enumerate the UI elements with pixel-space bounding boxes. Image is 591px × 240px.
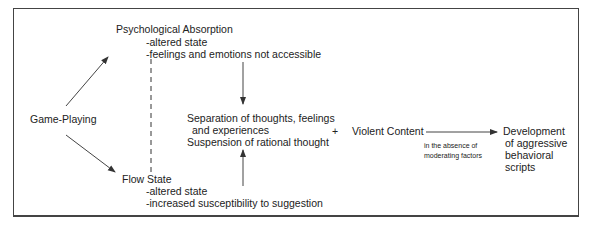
arrow-game-to-absorption <box>66 57 108 106</box>
plus-sign: + <box>332 125 338 137</box>
psych-absorption-point-1: -altered state <box>146 36 207 48</box>
separation-line-1: Separation of thoughts, feelings <box>187 112 335 124</box>
outcome-line-2: of aggressive <box>505 137 567 149</box>
psych-absorption-point-2: -feelings and emotions not accessible <box>146 48 321 60</box>
flow-state-point-1: -altered state <box>146 185 207 197</box>
flow-state-point-2: -increased susceptibility to suggestion <box>146 197 323 209</box>
violent-content-label: Violent Content <box>352 125 424 137</box>
game-playing-label: Game-Playing <box>30 113 97 125</box>
outcome-line-3: behavioral <box>505 149 553 161</box>
outcome-line-4: scripts <box>505 161 535 173</box>
separation-line-3: Suspension of rational thought <box>187 136 329 148</box>
flow-state-title: Flow State <box>122 173 172 185</box>
moderating-line-2: moderating factors <box>424 151 482 161</box>
outcome-line-1: Development <box>503 125 565 137</box>
separation-line-2: and experiences <box>192 124 269 136</box>
moderating-line-1: in the absence of <box>424 141 477 151</box>
arrow-game-to-flow <box>66 135 115 172</box>
psych-absorption-title: Psychological Absorption <box>116 23 233 35</box>
